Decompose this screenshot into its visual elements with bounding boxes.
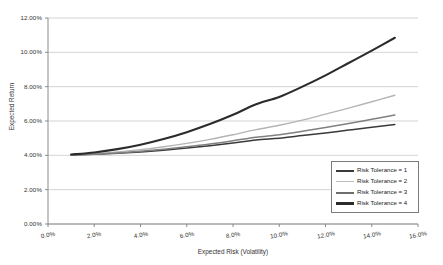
- legend-swatch-4: [336, 202, 354, 205]
- chart-legend: Risk Tolerance = 1Risk Tolerance = 2Risk…: [331, 161, 419, 213]
- y-tick-label: 0.00%: [2, 220, 42, 227]
- y-tick-label: 10.00%: [2, 48, 42, 55]
- series-lines: [71, 38, 395, 155]
- legend-label-3: Risk Tolerance = 3: [357, 189, 407, 195]
- legend-label-1: Risk Tolerance = 1: [357, 167, 407, 173]
- plot-canvas: [0, 0, 443, 265]
- series-line-4: [71, 38, 395, 155]
- y-tick-label: 12.00%: [2, 14, 42, 21]
- legend-swatch-1: [336, 170, 354, 172]
- legend-swatch-2: [336, 181, 354, 183]
- legend-item-2: Risk Tolerance = 2: [334, 176, 415, 187]
- y-axis-title: Expected Return: [8, 62, 15, 152]
- series-line-1: [71, 124, 395, 155]
- legend-swatch-3: [336, 192, 354, 194]
- y-tick-label: 2.00%: [2, 186, 42, 193]
- legend-label-4: Risk Tolerance = 4: [357, 200, 407, 206]
- x-axis-title: Expected Risk (Volatility): [48, 248, 418, 255]
- legend-item-4: Risk Tolerance = 4: [334, 198, 415, 209]
- legend-label-2: Risk Tolerance = 2: [357, 178, 407, 184]
- expected-return-vs-risk-chart: 0.00%2.00%4.00%6.00%8.00%10.00%12.00% 0.…: [0, 0, 443, 265]
- y-tick-label: 4.00%: [2, 151, 42, 158]
- series-line-2: [71, 95, 395, 155]
- legend-item-3: Risk Tolerance = 3: [334, 187, 415, 198]
- legend-item-1: Risk Tolerance = 1: [334, 165, 415, 176]
